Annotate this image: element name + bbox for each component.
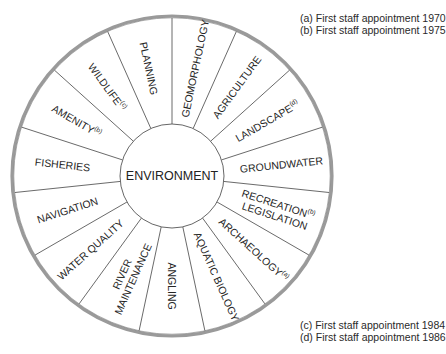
legend-top: (a) First staff appointment 1970 (b) Fir…: [300, 12, 446, 36]
center-hub: ENVIRONMENT: [120, 124, 224, 228]
legend-item-b: (b) First staff appointment 1975: [300, 24, 446, 36]
legend-bottom: (c) First staff appointment 1984 (d) Fir…: [300, 319, 446, 343]
legend-item-a: (a) First staff appointment 1970: [300, 12, 446, 24]
legend-item-d: (d) First staff appointment 1986: [300, 331, 446, 343]
segment-angling: ANGLING: [166, 262, 178, 309]
center-label: ENVIRONMENT: [126, 169, 219, 183]
legend-item-c: (c) First staff appointment 1984: [300, 319, 446, 331]
segment-label: ANGLING: [166, 262, 178, 309]
